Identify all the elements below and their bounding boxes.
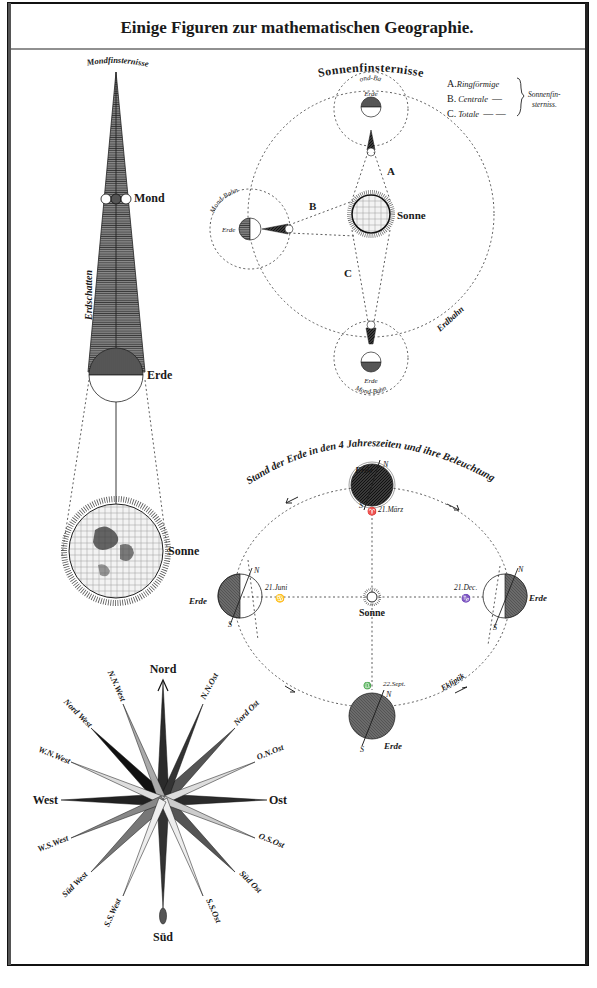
north-label-march: N	[382, 460, 389, 469]
earth-label-bottom: Erde	[363, 377, 377, 385]
north-label-june: N	[253, 566, 260, 575]
earth-label-march: Erde	[354, 465, 373, 475]
marker-c: C	[344, 267, 352, 279]
south-label-september: S	[360, 745, 364, 754]
date-june: 21.Juni	[265, 583, 287, 592]
marker-a: A	[387, 165, 395, 177]
compass-north: Nord	[150, 662, 177, 676]
capricorn-symbol: ♑	[461, 593, 471, 603]
earth-label-september: Erde	[383, 741, 402, 751]
sun-label-seasons: Sonne	[359, 607, 386, 618]
north-label-december: N	[517, 565, 524, 574]
moon-label: Mond	[134, 191, 165, 205]
svg-text:sterniss.: sterniss.	[532, 100, 557, 109]
libra-symbol: ♎	[363, 681, 372, 690]
south-label-march: S	[359, 501, 363, 510]
south-label-december: S	[493, 623, 497, 632]
sun-label-lunar: Sonne	[168, 544, 200, 558]
earth-label-lunar: Erde	[147, 368, 173, 382]
plate-frame	[8, 3, 588, 965]
earth-label-top: Erde	[363, 90, 377, 98]
earth-label-left: Erde	[221, 226, 235, 234]
date-march: 21.März	[378, 505, 403, 514]
compass-east: Ost	[269, 793, 287, 807]
svg-text:Sonnenfin-: Sonnenfin-	[528, 90, 561, 99]
plate-title: Einige Figuren zur mathematischen Geogra…	[120, 18, 473, 37]
date-december: 21.Dec.	[454, 583, 477, 592]
compass-west: West	[33, 793, 58, 807]
south-label-june: S	[228, 620, 232, 629]
north-label-september: N	[385, 690, 392, 699]
marker-b: B	[309, 200, 317, 212]
date-september: 22.Sept.	[383, 680, 406, 688]
engraved-plate: Einige Figuren zur mathematischen Geogra…	[0, 0, 597, 988]
svg-text:A.Ringförmige: A.Ringförmige	[447, 78, 499, 89]
compass-south: Süd	[153, 930, 173, 944]
sun-label-solar: Sonne	[397, 209, 426, 221]
svg-text:B.Centrale—: B.Centrale—	[447, 93, 503, 104]
earth-shadow-label: Erdschatten	[83, 270, 94, 321]
svg-text:C.Totale— —: C.Totale— —	[447, 108, 507, 119]
earth-label-june: Erde	[188, 596, 207, 606]
earth-label-december: Erde	[528, 593, 547, 603]
cancer-symbol: ♋	[275, 593, 285, 603]
aries-symbol: ♈	[367, 506, 377, 516]
